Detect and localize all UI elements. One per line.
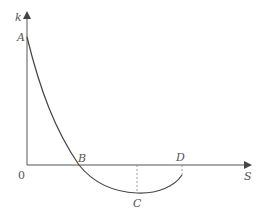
point-d-label: D bbox=[175, 151, 185, 164]
origin-label: 0 bbox=[18, 169, 25, 182]
point-a-label: A bbox=[16, 31, 25, 44]
x-axis-label: S bbox=[244, 170, 252, 183]
point-c-label: C bbox=[133, 197, 142, 210]
y-axis-label: k bbox=[15, 11, 22, 24]
point-b-label: B bbox=[77, 152, 86, 165]
curve bbox=[27, 37, 182, 193]
diagram: k S 0 A B C D bbox=[0, 0, 262, 220]
